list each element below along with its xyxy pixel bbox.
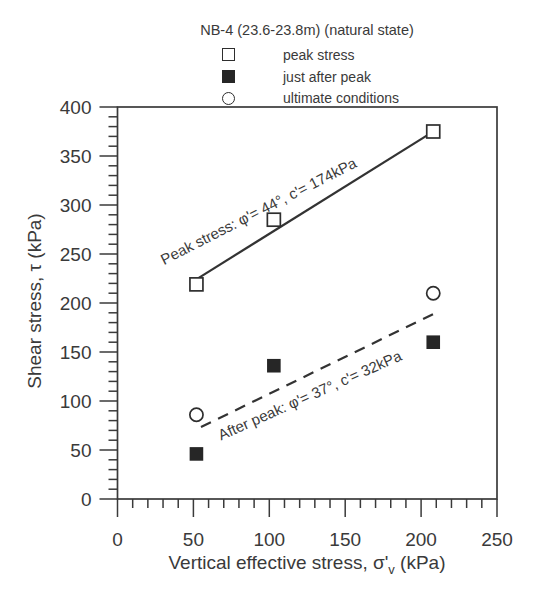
- data-point-peak-stress: [190, 278, 203, 291]
- y-tick-label: 50: [70, 440, 91, 461]
- y-tick-label: 400: [60, 97, 92, 118]
- shear-strength-figure: NB-4 (23.6-23.8m) (natural state) peak s…: [0, 0, 535, 595]
- x-axis-title: Vertical effective stress, σ'v (kPa): [117, 552, 497, 577]
- y-tick-label: 150: [60, 342, 92, 363]
- y-tick-label: 250: [60, 244, 92, 265]
- y-tick-label: 350: [60, 146, 92, 167]
- y-tick-label: 0: [81, 489, 92, 510]
- data-point-ultimate-conditions: [190, 408, 203, 421]
- x-tick-label: 150: [329, 529, 361, 550]
- data-point-ultimate-conditions: [427, 287, 440, 300]
- after-peak-envelope-line: [201, 312, 438, 427]
- y-tick-label: 300: [60, 195, 92, 216]
- x-tick-label: 200: [405, 529, 437, 550]
- data-point-just-after-peak: [267, 359, 281, 373]
- x-axis-title-text: Vertical effective stress,: [168, 552, 373, 573]
- trend-line-annotation: Peak stress: φ'= 44°, c'= 174kPa: [158, 154, 360, 268]
- x-tick-label: 100: [253, 529, 285, 550]
- plot-area: 050100150200250050100150200250300350400P…: [0, 0, 535, 595]
- y-axis-title: Shear stress, τ (kPa): [24, 213, 46, 388]
- x-tick-label: 0: [112, 529, 123, 550]
- x-tick-label: 50: [183, 529, 204, 550]
- peak-stress-envelope-line: [198, 131, 435, 279]
- x-tick-label: 250: [481, 529, 513, 550]
- data-point-just-after-peak: [190, 447, 204, 461]
- data-point-just-after-peak: [426, 335, 440, 349]
- y-tick-label: 100: [60, 391, 92, 412]
- trend-line-annotation: After peak: φ'= 37°, c'= 32kPa: [215, 346, 404, 443]
- y-tick-label: 200: [60, 293, 92, 314]
- data-point-peak-stress: [267, 213, 280, 226]
- plot-border: [118, 107, 498, 499]
- data-point-peak-stress: [427, 125, 440, 138]
- sigma-symbol: σ': [373, 552, 388, 573]
- x-axis-title-units: (kPa): [395, 552, 446, 573]
